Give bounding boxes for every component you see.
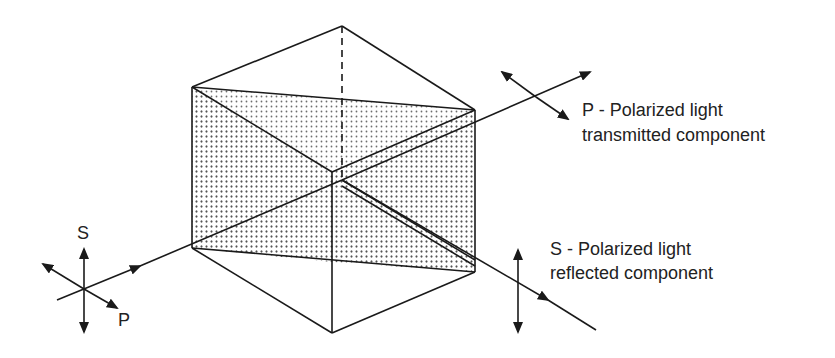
reflected-label-line1: S - Polarized light <box>550 239 691 259</box>
transmitted-label-line2: transmitted component <box>582 125 765 145</box>
reflected-label-line2: reflected component <box>550 263 713 283</box>
input-p-label: P <box>118 310 130 330</box>
input-beam <box>57 266 140 300</box>
p-polarization-arrow <box>502 72 568 119</box>
beamsplitter-diagram: P - Polarized light transmitted componen… <box>0 0 835 358</box>
transmitted-label-line1: P - Polarized light <box>582 100 723 120</box>
input-s-label: S <box>77 223 89 243</box>
